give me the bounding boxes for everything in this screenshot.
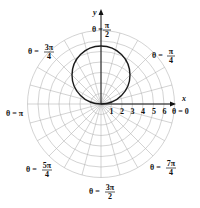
grid-spoke — [49, 52, 101, 104]
svg-text:4: 4 — [169, 168, 173, 177]
angle-label-5pi-over-4: θ = 5π 4 — [26, 161, 52, 179]
svg-text:π: π — [105, 21, 110, 30]
svg-text:θ =: θ = — [28, 47, 39, 56]
r-tick: 2 — [120, 107, 124, 116]
r-tick: 3 — [131, 107, 135, 116]
grid-spoke — [30, 85, 101, 104]
grid-spoke — [49, 104, 101, 156]
grid-spoke — [101, 85, 172, 104]
svg-text:3π: 3π — [106, 183, 115, 192]
y-axis-arrow-icon — [99, 9, 104, 15]
svg-text:θ =: θ = — [26, 165, 37, 174]
angle-label-pi: θ = π — [6, 109, 24, 118]
svg-text:π: π — [169, 47, 174, 56]
svg-text:2: 2 — [108, 192, 112, 201]
grid-spoke — [101, 33, 120, 104]
angle-label-3pi-over-4: θ = 3π 4 — [28, 43, 54, 61]
r-tick: 1 — [110, 107, 114, 116]
svg-text:θ =: θ = — [152, 51, 163, 60]
grid-spoke — [30, 104, 101, 123]
angle-label-pi-over-4: θ = π 4 — [152, 47, 175, 65]
svg-text:3π: 3π — [45, 43, 54, 52]
x-axis-label: x — [181, 94, 186, 103]
angle-label-3pi-over-2: θ = 3π 2 — [89, 183, 115, 201]
svg-text:2: 2 — [105, 30, 109, 39]
svg-text:4: 4 — [169, 56, 173, 65]
svg-text:4: 4 — [45, 170, 49, 179]
y-axis-label: y — [92, 8, 97, 17]
svg-text:7π: 7π — [167, 159, 176, 168]
polar-graph: x y 1 2 3 4 5 6 θ = 0 θ = π θ = π 2 θ = … — [0, 0, 200, 208]
grid-spoke — [82, 33, 101, 104]
axes — [99, 9, 177, 107]
angle-label-7pi-over-4: θ = 7π 4 — [150, 159, 176, 177]
grid-spoke — [82, 104, 101, 175]
r-tick: 4 — [141, 107, 145, 116]
r-tick: 5 — [152, 107, 156, 116]
svg-text:θ =: θ = — [150, 163, 161, 172]
r-tick: 6 — [163, 107, 167, 116]
angle-label-0: θ = 0 — [172, 107, 189, 116]
svg-text:4: 4 — [47, 52, 51, 61]
svg-text:5π: 5π — [43, 161, 52, 170]
svg-text:θ =: θ = — [92, 25, 103, 34]
x-axis-arrow-icon — [170, 102, 176, 107]
grid-spoke — [101, 52, 153, 104]
svg-text:θ =: θ = — [89, 187, 100, 196]
